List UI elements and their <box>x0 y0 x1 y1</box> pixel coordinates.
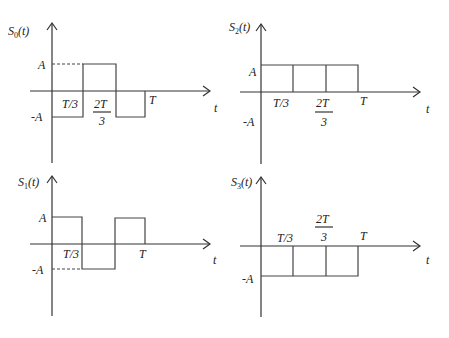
tick-t3: T <box>139 247 147 261</box>
signal-label: S3(t) <box>231 175 252 191</box>
waveform <box>261 246 358 276</box>
signal-label: S0(t) <box>8 24 29 40</box>
tick-t3: T <box>360 94 368 108</box>
tick-t2-den: 3 <box>320 230 327 244</box>
tick-t2-den: 3 <box>98 114 105 128</box>
tick-t1: T/3 <box>62 97 78 111</box>
level-neg-label: -A <box>243 115 255 129</box>
panel-s2: S2(t) A -A T/3 2T 3 T t <box>229 20 430 164</box>
panel-s3: S3(t) -A T/3 2T 3 T t <box>231 175 430 317</box>
tick-t2-num: 2T <box>94 97 108 111</box>
signal-diagram: S0(t) A -A T/3 2T 3 T t S2(t) A -A T/3 2… <box>0 0 449 338</box>
level-pos-label: A <box>248 65 257 79</box>
panel-s1: S1(t) A -A T/3 T t <box>18 175 217 316</box>
tick-t2-num: 2T <box>316 212 330 226</box>
signal-label: S1(t) <box>18 175 39 191</box>
tick-t3: T <box>149 93 157 107</box>
tick-t2-num: 2T <box>316 96 330 110</box>
x-axis-label: t <box>213 253 217 267</box>
waveform <box>261 65 358 92</box>
level-neg-label: -A <box>31 110 43 124</box>
level-pos-label: A <box>38 211 47 225</box>
tick-t1: T/3 <box>273 96 289 110</box>
signal-label: S2(t) <box>229 20 250 36</box>
tick-t2-den: 3 <box>320 115 327 129</box>
tick-t1: T/3 <box>63 247 79 261</box>
panel-s0: S0(t) A -A T/3 2T 3 T t <box>8 23 218 163</box>
x-axis-label: t <box>214 101 218 115</box>
x-axis-label: t <box>426 253 430 267</box>
tick-t3: T <box>360 229 368 243</box>
x-axis-label: t <box>426 102 430 116</box>
waveform <box>52 217 145 269</box>
level-neg-label: -A <box>242 272 254 286</box>
level-neg-label: -A <box>32 263 44 277</box>
level-pos-label: A <box>37 58 46 72</box>
tick-t1: T/3 <box>277 231 293 245</box>
